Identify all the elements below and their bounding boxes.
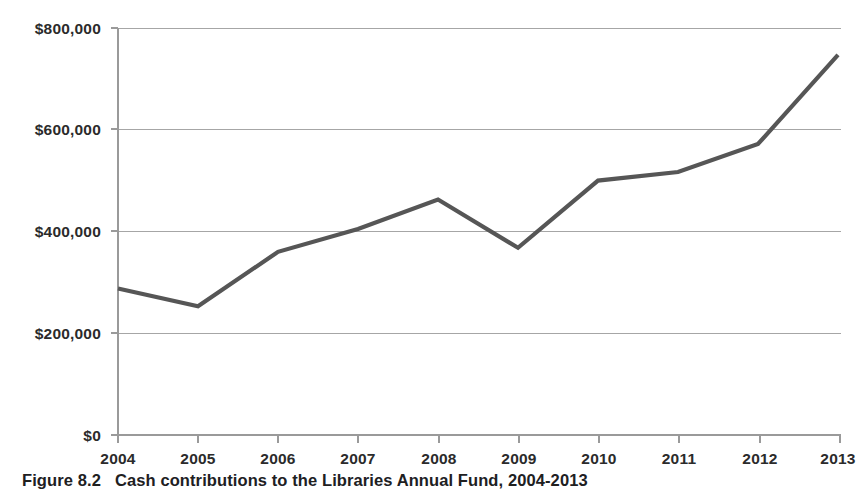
chart-background [0, 0, 867, 470]
y-tick-label-0: $0 [83, 427, 101, 444]
figure-caption-number: Figure 8.2 [22, 471, 101, 489]
x-tick-label-2013: 2013 [820, 450, 855, 467]
x-tick-label-2012: 2012 [742, 450, 777, 467]
y-tick-label-800000: $800,000 [35, 20, 101, 37]
figure-caption: Figure 8.2Cash contributions to the Libr… [0, 470, 867, 492]
x-tick-label-2010: 2010 [581, 450, 616, 467]
x-tick-label-2011: 2011 [662, 450, 697, 467]
y-tick-label-600000: $600,000 [35, 121, 101, 138]
x-tick-label-2006: 2006 [260, 450, 295, 467]
x-tick-label-2004: 2004 [100, 450, 135, 467]
figure-caption-title: Cash contributions to the Libraries Annu… [115, 471, 588, 489]
figure-container: $800,000 $600,000 $400,000 $200,000 $0 [0, 0, 867, 492]
x-tick-label-2005: 2005 [180, 450, 215, 467]
y-tick-label-400000: $400,000 [35, 223, 101, 240]
chart-svg: $800,000 $600,000 $400,000 $200,000 $0 [0, 0, 867, 470]
figure-caption-line: Figure 8.2Cash contributions to the Libr… [0, 470, 867, 490]
x-tick-label-2009: 2009 [501, 450, 536, 467]
x-tick-label-2008: 2008 [421, 450, 456, 467]
line-chart: $800,000 $600,000 $400,000 $200,000 $0 [0, 0, 867, 470]
x-tick-label-2007: 2007 [340, 450, 375, 467]
y-tick-label-200000: $200,000 [35, 325, 101, 342]
